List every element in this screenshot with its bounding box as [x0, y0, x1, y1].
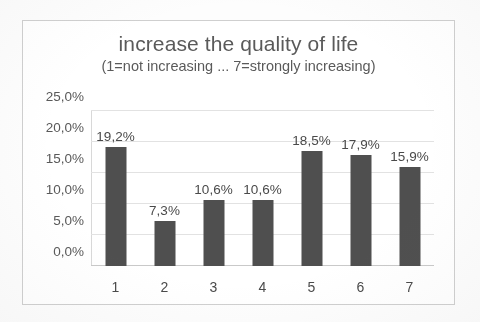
bar-value-label: 18,5% — [292, 133, 330, 148]
bar-value-label: 15,9% — [390, 149, 428, 164]
chart-title-block: increase the quality of life (1=not incr… — [23, 33, 454, 74]
plot-area: 0,0%5,0%10,0%15,0%20,0%25,0% 19,2%17,3%2… — [91, 111, 434, 266]
chart-title: increase the quality of life — [23, 33, 454, 55]
bar-group: 17,9%6 — [336, 111, 385, 266]
bar — [350, 155, 371, 266]
bar-value-label: 7,3% — [149, 203, 180, 218]
y-axis-tick-label: 5,0% — [53, 213, 84, 228]
x-axis-tick-label: 3 — [210, 279, 218, 295]
bar-group: 10,6%3 — [189, 111, 238, 266]
bar — [301, 151, 322, 266]
x-axis-tick-label: 4 — [259, 279, 267, 295]
y-axis-tick-label: 0,0% — [53, 244, 84, 259]
chart-container: increase the quality of life (1=not incr… — [22, 20, 455, 305]
bar — [399, 167, 420, 266]
bar-value-label: 10,6% — [194, 182, 232, 197]
bar-group: 18,5%5 — [287, 111, 336, 266]
bar-group: 15,9%7 — [385, 111, 434, 266]
bar-value-label: 19,2% — [96, 129, 134, 144]
x-axis-tick-label: 2 — [161, 279, 169, 295]
x-axis-tick-label: 5 — [308, 279, 316, 295]
bar-series: 19,2%17,3%210,6%310,6%418,5%517,9%615,9%… — [91, 111, 434, 266]
bar — [154, 221, 175, 266]
bar-group: 10,6%4 — [238, 111, 287, 266]
y-axis-tick-label: 25,0% — [46, 89, 84, 104]
bar — [105, 147, 126, 266]
x-axis-tick-label: 6 — [357, 279, 365, 295]
bar-group: 7,3%2 — [140, 111, 189, 266]
bar-value-label: 10,6% — [243, 182, 281, 197]
chart-subtitle: (1=not increasing ... 7=strongly increas… — [23, 58, 454, 74]
y-axis-tick-label: 20,0% — [46, 120, 84, 135]
bar-group: 19,2%1 — [91, 111, 140, 266]
x-axis-tick-label: 1 — [112, 279, 120, 295]
x-axis-tick-label: 7 — [406, 279, 414, 295]
bar — [203, 200, 224, 266]
bar — [252, 200, 273, 266]
chart-screenshot: increase the quality of life (1=not incr… — [0, 0, 480, 322]
y-axis-tick-label: 10,0% — [46, 182, 84, 197]
y-axis-tick-label: 15,0% — [46, 151, 84, 166]
bar-value-label: 17,9% — [341, 137, 379, 152]
